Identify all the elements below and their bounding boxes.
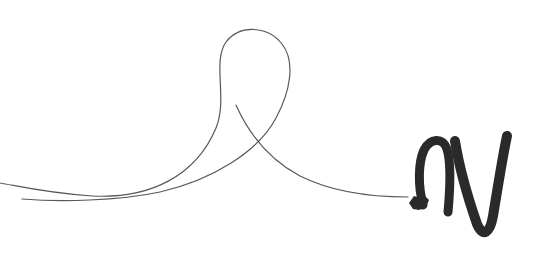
drawing-canvas: Hand-drawn looping line with bold checkm…: [0, 0, 550, 258]
paper-background: [0, 0, 550, 258]
handwritten-artwork: [0, 0, 550, 258]
